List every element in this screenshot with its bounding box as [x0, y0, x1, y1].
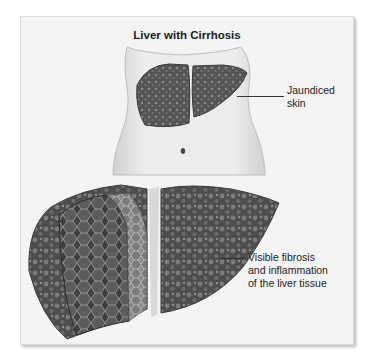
figure-panel: Liver with Cirrhosis Jaundiced skin Visi… — [20, 16, 354, 345]
figure-art — [21, 17, 353, 344]
fibrosis-label: Visible fibrosis and inflammation of the… — [248, 251, 328, 290]
torso-illustration — [113, 47, 265, 175]
jaundiced-skin-label: Jaundiced skin — [287, 84, 335, 110]
jaundiced-leader-line — [237, 96, 284, 97]
fibrosis-leader-line — [221, 258, 245, 259]
figure-title: Liver with Cirrhosis — [21, 29, 353, 41]
liver-cross-section-illustration — [29, 185, 279, 339]
